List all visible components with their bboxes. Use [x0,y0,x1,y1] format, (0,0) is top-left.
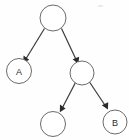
tree-diagram-svg: A B [0,0,129,140]
edge-root-to-left-a [23,29,44,64]
node-bottom-right-b[interactable]: B [103,110,127,134]
node-root[interactable] [40,5,66,31]
node-left-a[interactable]: A [7,59,32,84]
node-root-circle[interactable] [40,5,66,31]
background-speck [98,5,103,7]
node-right-inner[interactable] [70,61,94,85]
node-bottom-left-circle[interactable] [41,112,66,137]
edge-right-inner-to-bottom-right [90,82,109,110]
edge-line-root-right [62,29,77,61]
node-bottom-left[interactable] [41,112,66,137]
arrowhead-right-bottomleft-icon [60,105,66,113]
node-group: A B [7,5,128,137]
edge-line-right-b [90,82,106,106]
edge-right-inner-to-bottom-left [60,83,76,113]
edge-root-to-right-inner [62,29,80,65]
tree-diagram-canvas: A B [0,0,129,140]
node-left-a-label: A [16,67,22,77]
node-bottom-right-b-label: B [112,118,118,128]
node-right-inner-circle[interactable] [70,61,94,85]
arrowhead-right-b-icon [102,102,108,109]
edge-group [23,29,108,113]
edge-line-right-bottomleft [62,83,76,109]
edge-line-root-a [26,29,45,60]
